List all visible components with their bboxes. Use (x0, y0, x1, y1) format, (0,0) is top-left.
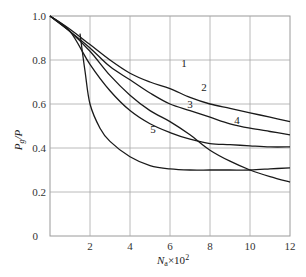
y-tick-label: 0.4 (32, 142, 46, 154)
curve-label-2: 2 (201, 81, 207, 93)
grid (50, 16, 290, 236)
x-tick-label: 12 (285, 240, 296, 252)
curve-5 (80, 34, 290, 170)
y-tick-label: 1.0 (32, 10, 46, 22)
x-tick-label: 8 (207, 240, 213, 252)
curve-label-4: 4 (234, 114, 240, 126)
curve-label-1: 1 (181, 57, 187, 69)
y-tick-label: 0.2 (32, 186, 46, 198)
curve-label-3: 3 (187, 98, 193, 110)
y-tick-label: 0 (33, 230, 39, 242)
y-tick-label: 0.6 (32, 98, 46, 110)
y-axis-title: Pg/P (12, 129, 26, 151)
y-tick-label: 0.8 (32, 54, 46, 66)
x-tick-label: 4 (127, 240, 133, 252)
curve-label-5: 5 (150, 123, 156, 135)
x-tick-label: 6 (167, 240, 173, 252)
chart: 2468101200.20.40.60.81.0 12345 Na×102 Pg… (0, 0, 306, 277)
x-tick-label: 10 (245, 240, 257, 252)
x-axis-title: Na×102 (156, 253, 189, 268)
tick-labels: 2468101200.20.40.60.81.0 (32, 10, 295, 252)
x-tick-label: 2 (87, 240, 93, 252)
